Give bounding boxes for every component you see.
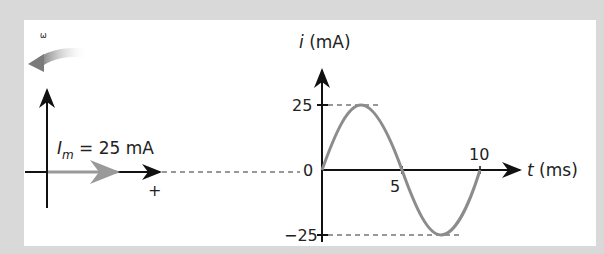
x-axis-label: t (ms)	[527, 160, 578, 180]
y-tick-label-25: 25	[292, 96, 312, 115]
y-axis-label: i (mA)	[299, 32, 351, 52]
x-tick-label-5: 5	[390, 177, 400, 196]
x-tick-label-10: 10	[469, 145, 489, 164]
phasor-waveform-diagram: ω Im = 25 mA + i (mA) t (ms) 25 0 −25 5 …	[0, 0, 604, 254]
plus-label: +	[148, 181, 161, 200]
phasor-magnitude-label: Im = 25 mA	[57, 138, 154, 162]
y-tick-label-neg25: −25	[284, 226, 318, 245]
omega-label: ω	[40, 31, 47, 40]
rotation-arrow-icon	[28, 52, 88, 72]
y-tick-label-0: 0	[303, 161, 313, 180]
